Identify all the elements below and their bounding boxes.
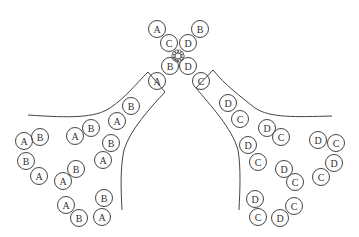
right-subunit-d: D	[310, 132, 327, 149]
right-subunit-c: C	[250, 154, 267, 171]
subunit-label: B	[88, 123, 95, 134]
subunit-label: D	[314, 135, 321, 146]
junction-subunit-c: C	[193, 73, 210, 90]
left-subunit-a: A	[55, 173, 72, 190]
right-subunit-c: C	[328, 135, 345, 152]
subunit-label: A	[59, 176, 67, 187]
subunit-label: A	[153, 24, 161, 35]
subunit-label: C	[278, 132, 285, 143]
subunit-label: D	[184, 38, 191, 49]
subunit-label: B	[76, 213, 83, 224]
left-subunit-b: B	[32, 129, 49, 146]
subunit-label: C	[318, 172, 325, 183]
right-subunit-d: D	[247, 191, 264, 208]
right-subunit-d: D	[220, 95, 237, 112]
right-subunit-d: D	[240, 137, 257, 154]
junction-subunit-d: D	[180, 35, 197, 52]
right-subunit-d: D	[326, 155, 343, 172]
left-subunit-b: B	[96, 190, 113, 207]
junction-subunit-a: A	[149, 21, 166, 38]
left-subunit-a: A	[109, 113, 126, 130]
subunit-label: D	[280, 164, 287, 175]
right-outer-boundary	[213, 70, 332, 117]
subunit-label: C	[255, 212, 262, 223]
subunit-label: B	[37, 132, 44, 143]
left-subunit-b: B	[68, 161, 85, 178]
right-subunit-c: C	[287, 174, 304, 191]
subunit-label: C	[291, 201, 298, 212]
right-subunit-c: C	[232, 111, 249, 128]
subunit-label: D	[276, 213, 283, 224]
junction-subunit-b: B	[192, 21, 209, 38]
subunit-label: B	[73, 164, 80, 175]
subunit-label: A	[35, 171, 43, 182]
subunit-label: B	[167, 61, 174, 72]
right-subunit-c: C	[273, 129, 290, 146]
subunit-label: A	[71, 131, 79, 142]
subunit-label: A	[98, 212, 106, 223]
subunit-label: D	[330, 158, 337, 169]
left-subunit-b: B	[123, 98, 140, 115]
junction-subunit-d: D	[180, 58, 197, 75]
subunit-label: C	[255, 157, 262, 168]
left-subunit-b: B	[18, 153, 35, 170]
subunit-label: B	[23, 156, 30, 167]
subunit-label: D	[244, 140, 251, 151]
left-subunit-a: A	[31, 168, 48, 185]
right-subunit-c: C	[250, 209, 267, 226]
junction-subunit-b: B	[162, 58, 179, 75]
junction-subunit-a: A	[149, 73, 166, 90]
right-subunit-d: D	[272, 210, 289, 227]
left-subunit-a: A	[67, 128, 84, 145]
subunit-label: C	[237, 114, 244, 125]
subunit-label: A	[99, 155, 107, 166]
junction-subunits: ACDBBDAC	[149, 21, 210, 90]
left-subunit-a: A	[58, 197, 75, 214]
subunit-label: A	[113, 116, 121, 127]
junction-subunit-c: C	[161, 35, 178, 52]
subunit-label: C	[333, 138, 340, 149]
subunit-label: D	[251, 194, 258, 205]
left-subunit-a: A	[94, 209, 111, 226]
subunit-label: A	[153, 76, 161, 87]
subunit-label: B	[128, 101, 135, 112]
right-subunit-c: C	[313, 169, 330, 186]
left-subunit-b: B	[83, 120, 100, 137]
subunit-label: D	[184, 61, 191, 72]
left-subunit-b: B	[71, 210, 88, 227]
left-subunit-a: A	[95, 152, 112, 169]
right-inner-boundary	[196, 88, 240, 210]
subunit-label: B	[197, 24, 204, 35]
subunit-label: A	[62, 200, 70, 211]
left-subunit-b: B	[103, 135, 120, 152]
subunit-label: A	[20, 136, 28, 147]
subunit-label: D	[224, 98, 231, 109]
right-subunit-c: C	[286, 198, 303, 215]
subunit-assembly-diagram: ACDBBDAC ABABABBAABABABBA DCDCDCDCDCDCDC…	[0, 0, 359, 237]
subunit-label: C	[292, 177, 299, 188]
subunit-label: B	[108, 138, 115, 149]
right-subunit-cluster: DCDCDCDCDCDCDCCD	[220, 95, 345, 227]
subunit-label: C	[198, 76, 205, 87]
subunit-label: C	[166, 38, 173, 49]
subunit-label: D	[263, 123, 270, 134]
left-subunit-a: A	[16, 133, 33, 150]
subunit-label: B	[101, 193, 108, 204]
